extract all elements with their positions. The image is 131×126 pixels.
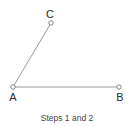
segment-ac bbox=[13, 23, 51, 87]
geometry-diagram: A B C Steps 1 and 2 bbox=[0, 0, 131, 126]
diagram-caption: Steps 1 and 2 bbox=[41, 113, 94, 123]
point-c-label: C bbox=[46, 8, 54, 20]
point-b-label: B bbox=[116, 91, 123, 103]
point-a-label: A bbox=[9, 91, 17, 103]
point-a-marker bbox=[11, 85, 15, 89]
point-c-marker bbox=[49, 21, 53, 25]
point-b-marker bbox=[117, 85, 121, 89]
